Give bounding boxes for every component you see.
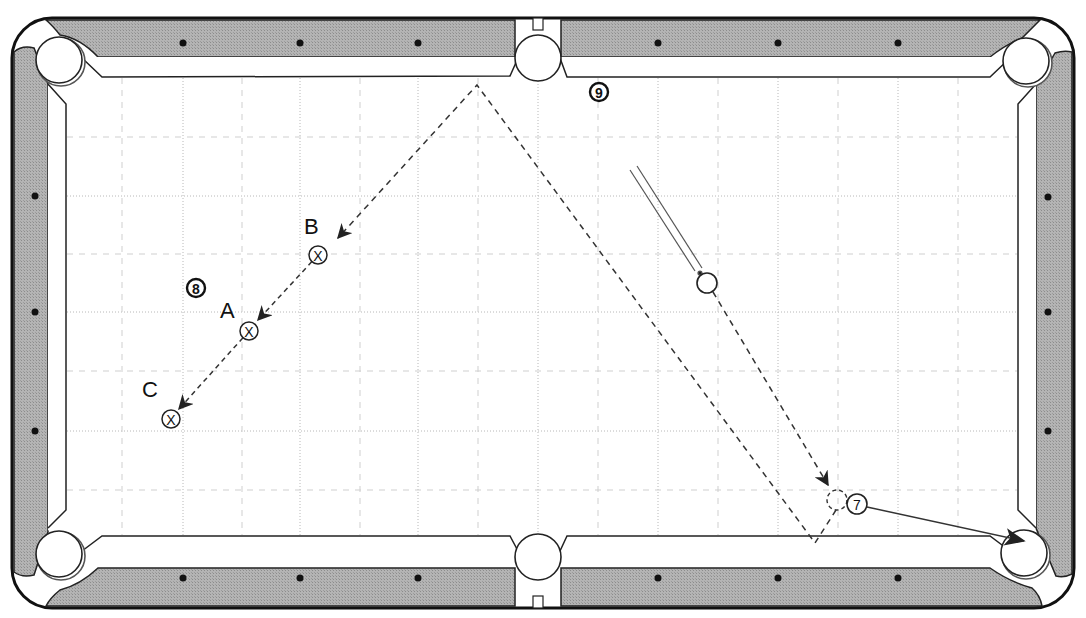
rail-top-left [46, 20, 515, 57]
rail-left [14, 47, 48, 576]
top-pocket-tab [533, 18, 543, 30]
ball-9-number: 9 [595, 85, 603, 101]
rail-top-right [561, 20, 1040, 57]
target-C-mark: X [166, 412, 176, 428]
pocket-top-middle [515, 35, 561, 81]
ball-8: 8 [187, 279, 205, 297]
pocket-top-left [36, 37, 85, 86]
pocket-top-right [1003, 38, 1052, 87]
pocket-bottom-middle [515, 534, 561, 580]
ball-9: 9 [590, 83, 608, 101]
playing-surface [48, 57, 1036, 553]
target-A-label: A [220, 298, 235, 323]
bottom-pocket-tab [533, 596, 543, 608]
rail-right [1036, 51, 1072, 576]
pool-table-diagram: 7 8 9 X B X A X C [0, 0, 1086, 618]
pocket-bottom-left [36, 531, 85, 580]
ball-7: 7 [847, 494, 867, 514]
target-A-mark: X [244, 324, 254, 340]
rail-bottom-right [561, 568, 1042, 606]
rail-bottom-left [46, 568, 515, 606]
target-B-label: B [304, 214, 319, 239]
ball-8-number: 8 [192, 281, 200, 297]
target-C-label: C [142, 377, 158, 402]
ball-7-number: 7 [853, 497, 861, 513]
target-B-mark: X [313, 248, 323, 264]
cue-ball [697, 273, 717, 293]
